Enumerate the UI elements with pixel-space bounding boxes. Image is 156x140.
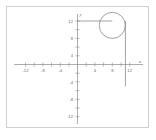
y-tick-label: 8 xyxy=(71,36,74,41)
y-tick-label: -12 xyxy=(67,114,74,119)
y-tick-labels: 12 8 4 -4 -8 -12 xyxy=(67,19,74,120)
x-tick-label: 8 xyxy=(111,68,114,73)
x-tick-label: 4 xyxy=(94,68,97,73)
x-tick-label: -4 xyxy=(58,68,62,73)
figure-container: -12 -8 -4 4 8 12 12 8 4 -4 -8 -12 x y xyxy=(0,0,156,140)
axis-lines xyxy=(14,14,143,124)
y-axis-label: y xyxy=(78,12,82,17)
x-tick-label: 12 xyxy=(127,68,132,73)
coordinate-plane-chart: -12 -8 -4 4 8 12 12 8 4 -4 -8 -12 x y xyxy=(0,0,156,140)
x-axis-label: x xyxy=(138,59,141,64)
y-tick-label: -4 xyxy=(69,80,73,85)
y-tick-label: -8 xyxy=(69,97,73,102)
circle-shape xyxy=(99,12,125,38)
x-tick-label: -12 xyxy=(22,68,29,73)
y-tick-label: 4 xyxy=(71,53,74,58)
x-tick-label: -8 xyxy=(41,68,45,73)
y-tick-label: 12 xyxy=(68,19,73,24)
